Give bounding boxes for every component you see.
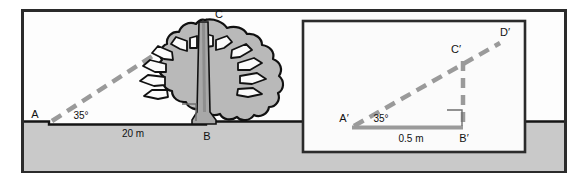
label-angle-a: 35° bbox=[73, 110, 88, 121]
label-point-c-prime: C′ bbox=[451, 43, 461, 55]
label-baseline-ab: 20 m bbox=[122, 128, 144, 139]
label-point-b-prime: B′ bbox=[459, 132, 468, 144]
label-point-a: A bbox=[31, 108, 39, 120]
label-angle-a-prime: 35° bbox=[373, 113, 388, 124]
label-point-a-prime: A′ bbox=[339, 112, 348, 124]
label-point-d-prime: D′ bbox=[500, 26, 510, 38]
trunk-shading bbox=[204, 23, 205, 112]
label-point-c: C bbox=[215, 8, 223, 20]
label-baseline-ab-prime: 0.5 m bbox=[398, 133, 423, 144]
tree-branch bbox=[190, 36, 197, 48]
figure-container: Tree height by angle of elevation with s… bbox=[0, 0, 580, 182]
diagram-svg: Tree height by angle of elevation with s… bbox=[0, 0, 580, 182]
label-point-b: B bbox=[203, 130, 210, 142]
